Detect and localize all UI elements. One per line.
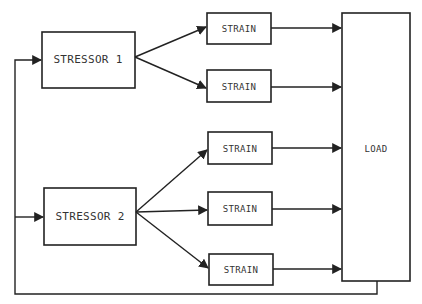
stressor-2-label: STRESSOR 2: [55, 210, 124, 223]
arrow-stressor1-strain2: [135, 57, 206, 88]
strain-node-5: STRAIN: [209, 254, 273, 285]
strain-label: STRAIN: [223, 204, 257, 214]
load-node: LOAD: [342, 13, 410, 281]
strain-node-1: STRAIN: [207, 13, 271, 44]
arrow-stressor2-strain5: [136, 212, 208, 268]
arrow-stressor2-strain3: [136, 150, 207, 212]
load-label: LOAD: [365, 144, 388, 154]
strain-label: STRAIN: [222, 82, 256, 92]
strain-label: STRAIN: [223, 144, 257, 154]
stressor-to-strain-arrows: [135, 27, 208, 268]
strain-node-4: STRAIN: [208, 192, 272, 225]
arrow-stressor2-strain4: [136, 210, 207, 212]
strain-label: STRAIN: [222, 24, 256, 34]
stressor-2-node: STRESSOR 2: [44, 188, 136, 245]
stress-strain-load-diagram: STRESSOR 1 STRESSOR 2 STRAIN STRAIN STRA…: [0, 0, 422, 304]
arrow-stressor1-strain1: [135, 27, 206, 57]
strain-node-3: STRAIN: [208, 132, 272, 164]
stressor-1-label: STRESSOR 1: [53, 53, 122, 66]
strain-to-load-arrows: [271, 28, 341, 269]
stressor-1-node: STRESSOR 1: [42, 32, 135, 88]
strain-label: STRAIN: [224, 265, 258, 275]
strain-node-2: STRAIN: [207, 70, 271, 102]
